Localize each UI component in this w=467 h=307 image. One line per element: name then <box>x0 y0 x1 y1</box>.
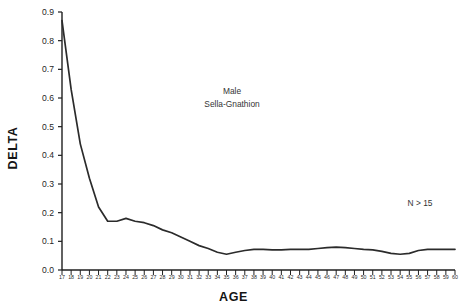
y-axis-tick-label: 0.8 <box>24 36 54 46</box>
y-axis-tick-labels: 0.00.10.20.30.40.50.60.70.80.9 <box>22 0 54 307</box>
y-axis-title-text: DELTA <box>6 127 20 170</box>
axis-spines <box>62 12 455 270</box>
y-axis-tick-label: 0.1 <box>24 236 54 246</box>
line-chart-plot <box>0 0 467 307</box>
y-axis-tick-label: 0.3 <box>24 179 54 189</box>
annotation-measurement-label: Sella-Gnathion <box>204 99 259 109</box>
x-axis-title: AGE <box>0 290 467 304</box>
y-axis-tick-label: 0.5 <box>24 122 54 132</box>
y-axis-tick-label: 0.9 <box>24 7 54 17</box>
y-axis-tick-label: 0.2 <box>24 208 54 218</box>
y-axis-tick-label: 0.7 <box>24 64 54 74</box>
annotation-sample-size: N > 15 <box>408 198 433 208</box>
y-axis-tick-label: 0.4 <box>24 150 54 160</box>
y-axis-title: DELTA <box>2 108 24 188</box>
y-axis-tick-label: 0.6 <box>24 93 54 103</box>
y-axis-tick-label: 0.0 <box>24 265 54 275</box>
annotation-group-label: Male <box>223 86 241 96</box>
x-axis-tick-label: 60 <box>447 274 463 280</box>
data-series-line <box>62 21 455 255</box>
chart-container: 0.00.10.20.30.40.50.60.70.80.9 DELTA 171… <box>0 0 467 307</box>
